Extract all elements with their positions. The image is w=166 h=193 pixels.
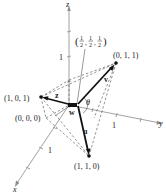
svg-text:(: ( <box>75 35 79 48</box>
x-tick-1: 1 <box>48 146 52 155</box>
z-tick-1: 1 <box>59 53 63 62</box>
label-point-101: (1, 0, 1) <box>4 94 30 103</box>
svg-text:1: 1 <box>89 35 92 41</box>
svg-text:1: 1 <box>80 35 83 41</box>
point-110 <box>87 154 91 158</box>
z-axis <box>67 5 71 108</box>
svg-text:): ) <box>103 35 107 48</box>
svg-text:2: 2 <box>89 42 92 48</box>
label-vector-u: u <box>83 127 88 136</box>
svg-text:,: , <box>85 39 87 47</box>
label-vector-v: v <box>104 75 108 84</box>
svg-text:2: 2 <box>98 42 101 48</box>
label-center-point: ( 1 2 , 1 2 , 1 2 ) <box>75 35 107 49</box>
vector-diagram: z y x 1 1 1 (1, 0, 1) (0, 1, 1) (1, 1, 0… <box>0 0 166 193</box>
x-axis-label: x <box>12 185 17 193</box>
vector-w-box <box>68 103 77 107</box>
label-vector-w: w <box>69 108 75 117</box>
svg-text:,: , <box>94 39 96 47</box>
label-origin: (0, 0, 0) <box>15 114 41 123</box>
point-011 <box>114 61 118 65</box>
label-vector-z: z <box>55 91 59 100</box>
y-tick-1: 1 <box>112 121 116 130</box>
point-101 <box>39 95 43 99</box>
vector-w <box>68 103 77 107</box>
origin-leader-line <box>55 107 68 116</box>
label-point-110: (1, 1, 0) <box>74 162 100 171</box>
label-point-011: (0, 1, 1) <box>113 51 139 60</box>
label-theta: θ <box>86 98 90 107</box>
y-axis-label: y <box>158 119 163 128</box>
y-axis <box>69 105 163 125</box>
svg-text:1: 1 <box>98 35 101 41</box>
svg-text:2: 2 <box>80 42 83 48</box>
vector-z-arrow-icon <box>42 96 49 100</box>
